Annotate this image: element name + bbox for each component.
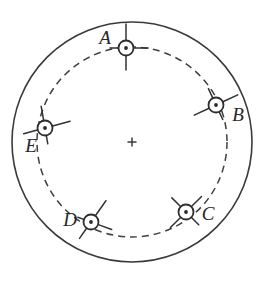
center-plus-icon bbox=[128, 138, 137, 147]
tick-line bbox=[52, 121, 70, 126]
station-marker-b[interactable]: B bbox=[194, 89, 244, 126]
station-label-a: A bbox=[97, 27, 111, 48]
marker-center-dot bbox=[43, 126, 47, 130]
station-label-c: C bbox=[202, 203, 215, 224]
tick-line bbox=[170, 217, 181, 228]
tick-line bbox=[80, 228, 87, 239]
diagram-canvas: ABCDE bbox=[0, 0, 268, 283]
tick-line bbox=[222, 95, 237, 102]
station-label-d: D bbox=[62, 209, 77, 230]
tick-line bbox=[191, 217, 199, 225]
tick-line bbox=[98, 224, 112, 229]
station-marker-c[interactable]: C bbox=[170, 196, 214, 227]
station-marker-e[interactable]: E bbox=[24, 106, 70, 156]
tick-line bbox=[95, 201, 106, 217]
marker-center-dot bbox=[184, 210, 188, 214]
tick-line bbox=[172, 198, 181, 207]
tick-line bbox=[24, 130, 38, 134]
station-label-b: B bbox=[232, 104, 244, 125]
station-markers-layer: ABCDE bbox=[24, 24, 244, 238]
marker-center-dot bbox=[214, 103, 218, 107]
station-label-e: E bbox=[24, 135, 37, 156]
circular-station-diagram: ABCDE bbox=[0, 0, 268, 283]
tick-line bbox=[191, 196, 202, 207]
tick-line bbox=[194, 108, 209, 115]
station-marker-d[interactable]: D bbox=[62, 201, 112, 239]
marker-center-dot bbox=[89, 220, 93, 224]
marker-center-dot bbox=[124, 46, 128, 50]
station-marker-a[interactable]: A bbox=[97, 24, 148, 70]
